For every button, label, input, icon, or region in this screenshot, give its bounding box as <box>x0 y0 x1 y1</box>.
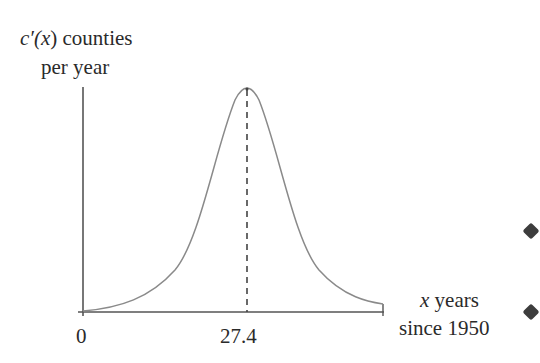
bell-curve <box>83 88 383 311</box>
peak-point <box>245 87 248 90</box>
